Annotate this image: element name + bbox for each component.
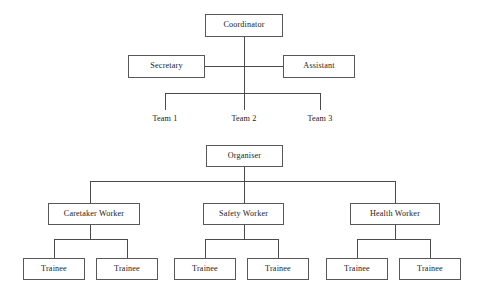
node-trainee-5-label: Trainee <box>344 265 370 273</box>
edge-organiser-drop <box>244 167 245 182</box>
node-secretary-label: Secretary <box>150 62 182 70</box>
node-health-worker-label: Health Worker <box>370 210 420 218</box>
edge-worker-bar <box>90 181 395 182</box>
edge-drop-trainee-5 <box>357 239 358 258</box>
node-caretaker-worker[interactable]: Caretaker Worker <box>48 203 140 225</box>
edge-coordinator-spine <box>244 37 245 93</box>
node-trainee-3-label: Trainee <box>192 265 218 273</box>
edge-drop-caretaker-worker <box>90 181 91 203</box>
node-trainee-1-label: Trainee <box>41 265 67 273</box>
edge-drop-trainee-2 <box>127 239 128 258</box>
node-organiser[interactable]: Organiser <box>206 145 283 167</box>
edge-caretaker-trainee-bar <box>54 239 127 240</box>
edge-drop-trainee-4 <box>278 239 279 258</box>
node-trainee-1[interactable]: Trainee <box>23 258 85 280</box>
node-trainee-4-label: Trainee <box>265 265 291 273</box>
org-chart-canvas: Coordinator Secretary Assistant Team 1 T… <box>0 0 480 294</box>
node-trainee-2[interactable]: Trainee <box>96 258 158 280</box>
node-health-worker[interactable]: Health Worker <box>350 203 440 225</box>
edge-safety-worker-drop <box>244 225 245 239</box>
node-assistant[interactable]: Assistant <box>283 55 355 78</box>
label-team-1: Team 1 <box>135 113 195 125</box>
edge-drop-trainee-3 <box>205 239 206 258</box>
label-team-2: Team 2 <box>214 113 274 125</box>
edge-drop-team-1 <box>165 93 166 110</box>
label-team-3-text: Team 3 <box>307 115 332 123</box>
node-trainee-6[interactable]: Trainee <box>399 258 461 280</box>
node-caretaker-worker-label: Caretaker Worker <box>64 210 124 218</box>
label-team-2-text: Team 2 <box>231 115 256 123</box>
node-trainee-6-label: Trainee <box>417 265 443 273</box>
edge-safety-trainee-bar <box>205 239 278 240</box>
node-trainee-3[interactable]: Trainee <box>174 258 236 280</box>
edge-caretaker-worker-drop <box>90 225 91 239</box>
edge-spine-to-assistant <box>244 66 283 67</box>
edge-drop-health-worker <box>395 181 396 203</box>
node-trainee-2-label: Trainee <box>114 265 140 273</box>
edge-secretary-to-spine <box>205 66 245 67</box>
edge-drop-team-3 <box>320 93 321 110</box>
node-assistant-label: Assistant <box>303 62 334 70</box>
node-safety-worker[interactable]: Safety Worker <box>203 203 284 225</box>
edge-drop-trainee-1 <box>54 239 55 258</box>
edge-drop-team-2 <box>244 93 245 110</box>
label-team-1-text: Team 1 <box>152 115 177 123</box>
label-team-3: Team 3 <box>290 113 350 125</box>
edge-team-bar <box>165 93 321 94</box>
node-trainee-5[interactable]: Trainee <box>326 258 388 280</box>
node-coordinator[interactable]: Coordinator <box>205 14 283 37</box>
edge-health-trainee-bar <box>357 239 430 240</box>
edge-drop-trainee-6 <box>430 239 431 258</box>
node-organiser-label: Organiser <box>228 152 261 160</box>
node-secretary[interactable]: Secretary <box>128 55 205 78</box>
node-safety-worker-label: Safety Worker <box>219 210 268 218</box>
node-trainee-4[interactable]: Trainee <box>247 258 309 280</box>
edge-health-worker-drop <box>395 225 396 239</box>
node-coordinator-label: Coordinator <box>223 21 264 29</box>
edge-drop-safety-worker <box>244 181 245 203</box>
